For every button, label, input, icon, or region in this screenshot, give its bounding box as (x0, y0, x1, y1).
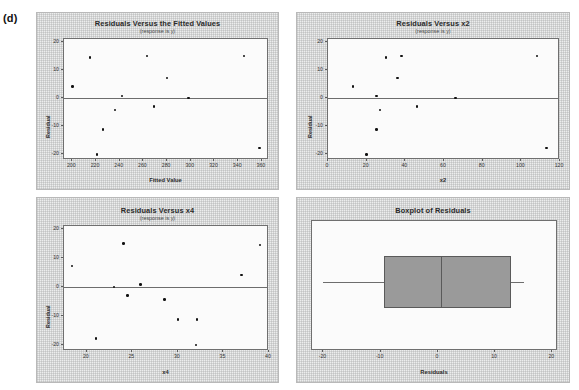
data-point (195, 344, 198, 347)
data-point (196, 318, 199, 321)
y-axis-tick-label: 10 (307, 66, 323, 72)
x-axis-tick (237, 159, 238, 161)
panel-subtitle: (response is y) (297, 28, 569, 34)
x-axis-tick (213, 159, 214, 161)
x-axis-tick-label: 100 (516, 162, 525, 168)
y-axis-tick (61, 228, 63, 229)
panel-residuals-vs-x2: Residuals Versus x2 (response is y) x2 R… (296, 12, 570, 190)
x-axis-tick-label: 10 (491, 353, 497, 359)
x-axis-tick (261, 159, 262, 161)
x-axis-tick (190, 159, 191, 161)
panel-subtitle: (response is y) (37, 215, 278, 221)
y-axis-tick-label: 0 (307, 94, 323, 100)
data-point (240, 274, 243, 277)
data-point (95, 337, 98, 340)
data-point (536, 55, 539, 58)
panel-residuals-vs-fitted: Residuals Versus the Fitted Values (resp… (36, 12, 279, 190)
data-point (375, 128, 378, 131)
x-axis-tick-label: 360 (257, 162, 266, 168)
y-axis-tick (61, 125, 63, 126)
data-point (385, 56, 388, 59)
x-axis-title: x4 (63, 369, 268, 375)
data-point (166, 77, 169, 80)
x-axis-tick (443, 159, 444, 161)
x-axis-tick-label: 40 (265, 353, 271, 359)
data-point (89, 56, 92, 59)
data-point (365, 153, 368, 156)
y-axis-tick (325, 69, 327, 70)
x-axis-title: x2 (327, 177, 559, 183)
figure-root: (d) Residuals Versus the Fitted Values (… (0, 0, 579, 390)
y-axis-tick-label: -10 (43, 122, 59, 128)
y-axis-tick (325, 97, 327, 98)
x-axis-tick (366, 159, 367, 161)
x-axis-tick (520, 159, 521, 161)
y-axis-tick-label: -20 (307, 150, 323, 156)
data-point (163, 298, 166, 301)
zero-reference-line (64, 98, 267, 99)
x-axis-tick-label: 0 (326, 162, 329, 168)
y-axis-tick (61, 257, 63, 258)
x-axis-tick (95, 159, 96, 161)
x-axis-tick (494, 350, 495, 352)
x-axis-tick (131, 350, 132, 352)
panel-title: Boxplot of Residuals (297, 206, 569, 215)
x-axis-tick-label: -10 (376, 353, 384, 359)
y-axis-tick (325, 125, 327, 126)
x-axis-tick-label: 120 (555, 162, 564, 168)
x-axis-title: Residuals (311, 369, 557, 375)
boxplot-box (384, 256, 511, 308)
data-point (121, 95, 124, 98)
y-axis-tick (61, 41, 63, 42)
data-point (146, 55, 149, 58)
data-point (71, 85, 74, 88)
x-axis-tick-label: 20 (83, 353, 89, 359)
data-point (71, 265, 74, 268)
y-axis-tick-label: -10 (43, 312, 59, 318)
x-axis-tick (222, 350, 223, 352)
x-axis-tick (86, 350, 87, 352)
y-axis-tick (61, 153, 63, 154)
data-point (139, 283, 142, 286)
x-axis-tick (119, 159, 120, 161)
y-axis-tick-label: -20 (43, 341, 59, 347)
x-axis-tick-label: 260 (138, 162, 147, 168)
x-axis-tick (559, 159, 560, 161)
x-axis-tick (551, 350, 552, 352)
x-axis-tick-label: 340 (233, 162, 242, 168)
data-point (177, 318, 180, 321)
y-axis-tick-label: -10 (307, 122, 323, 128)
x-axis-tick (437, 350, 438, 352)
x-axis-tick (482, 159, 483, 161)
x-axis-tick (404, 159, 405, 161)
x-axis-tick (142, 159, 143, 161)
y-axis-tick-label: 10 (43, 66, 59, 72)
data-point (243, 55, 246, 58)
y-axis-tick (61, 344, 63, 345)
x-axis-tick-label: 80 (479, 162, 485, 168)
data-point (396, 77, 399, 80)
x-axis-tick-label: 240 (114, 162, 123, 168)
plot-area (327, 38, 559, 159)
data-point (153, 105, 156, 108)
y-axis-tick (61, 315, 63, 316)
data-point (375, 95, 378, 98)
x-axis-tick (268, 350, 269, 352)
x-axis-tick-label: 25 (128, 353, 134, 359)
x-axis-tick (71, 159, 72, 161)
x-axis-title: Fitted Value (63, 177, 268, 183)
x-axis-tick-label: 35 (220, 353, 226, 359)
y-axis-tick-label: 0 (43, 94, 59, 100)
data-point (416, 105, 419, 108)
x-axis-tick-label: 0 (435, 353, 438, 359)
x-axis-tick-label: 30 (174, 353, 180, 359)
data-point (259, 244, 262, 247)
data-point (126, 294, 129, 297)
x-axis-tick-label: 200 (67, 162, 76, 168)
panel-boxplot-residuals: Boxplot of Residuals Residuals -20-10010… (296, 197, 570, 383)
y-axis-tick (61, 69, 63, 70)
panel-title: Residuals Versus the Fitted Values (37, 19, 278, 28)
y-axis-tick-label: 20 (43, 38, 59, 44)
panel-subtitle: (response is y) (37, 28, 278, 34)
plot-area (63, 38, 268, 159)
